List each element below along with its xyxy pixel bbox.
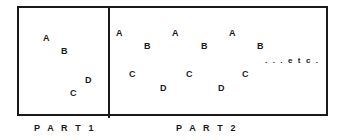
token-letter: B xyxy=(201,42,208,51)
token-letter: D xyxy=(160,84,167,93)
token-letter: C xyxy=(242,70,249,79)
etc-annotation: . . . e t c . xyxy=(265,57,320,65)
token-letter: C xyxy=(186,70,193,79)
sequence-diagram-figure: A B D C A B C D A B C D A B C . . . e t … xyxy=(0,0,343,140)
token-letter: A xyxy=(116,29,123,38)
token-letter: D xyxy=(85,76,92,85)
token-letter: C xyxy=(129,70,136,79)
part-divider-line xyxy=(108,6,110,118)
token-letter: C xyxy=(70,89,77,98)
token-letter: B xyxy=(144,42,151,51)
caption-part-1: P A R T 1 xyxy=(34,124,96,133)
token-letter: D xyxy=(218,84,225,93)
caption-part-2: P A R T 2 xyxy=(176,124,238,133)
token-letter: B xyxy=(257,42,264,51)
token-letter: A xyxy=(229,29,236,38)
token-letter: A xyxy=(172,29,179,38)
token-letter: A xyxy=(43,34,50,43)
token-letter: B xyxy=(61,47,68,56)
